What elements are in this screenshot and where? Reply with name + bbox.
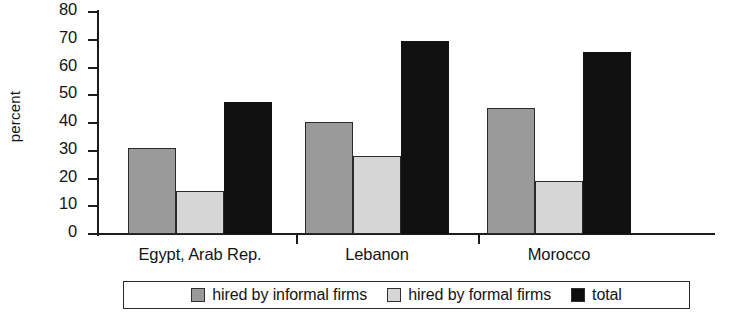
y-axis-tick-label: 60 [59, 56, 77, 75]
legend-label: hired by formal firms [408, 286, 551, 304]
bar-informal [305, 122, 353, 234]
y-axis-tick-mark [88, 122, 97, 124]
y-axis-tick-label: 20 [59, 167, 77, 186]
y-axis-tick-mark [88, 11, 97, 13]
x-axis-label: Morocco [439, 245, 679, 264]
y-axis-tick-label: 70 [59, 28, 77, 47]
legend-swatch-informal [191, 288, 205, 302]
plot-area [97, 12, 715, 234]
y-axis-tick-label: 40 [59, 111, 77, 130]
bar-formal [535, 181, 583, 234]
legend-item: hired by formal firms [387, 286, 551, 304]
bar-chart: percent 80706050403020100 Egypt, Arab Re… [0, 0, 729, 316]
y-axis-tick-mark [88, 178, 97, 180]
bar-total [583, 52, 631, 234]
bar-informal [487, 108, 535, 234]
y-axis-tick-label: 10 [59, 194, 77, 213]
legend-label: total [592, 286, 622, 304]
y-axis-tick-mark [88, 67, 97, 69]
bar-informal [128, 148, 176, 234]
y-axis-title: percent [6, 77, 23, 157]
bar-total [401, 41, 449, 234]
y-axis-tick-mark [88, 205, 97, 207]
legend-swatch-total [571, 288, 585, 302]
legend-swatch-formal [387, 288, 401, 302]
bar-formal [176, 191, 224, 234]
y-axis-tick-label: 0 [68, 222, 77, 241]
y-axis-tick-label: 50 [59, 83, 77, 102]
legend-item: hired by informal firms [191, 286, 367, 304]
y-axis-tick-label: 80 [59, 0, 77, 19]
chart-legend: hired by informal firmshired by formal f… [123, 281, 690, 309]
legend-label: hired by informal firms [212, 286, 367, 304]
bar-total [224, 102, 272, 234]
group-separator-tick [296, 235, 298, 244]
y-axis-tick-mark [88, 94, 97, 96]
group-separator-tick [478, 235, 480, 244]
bar-formal [353, 156, 401, 234]
y-axis-tick-mark [88, 39, 97, 41]
y-axis-tick-mark [88, 150, 97, 152]
legend-item: total [571, 286, 622, 304]
y-axis-tick-label: 30 [59, 139, 77, 158]
y-axis-tick-mark [88, 233, 97, 235]
